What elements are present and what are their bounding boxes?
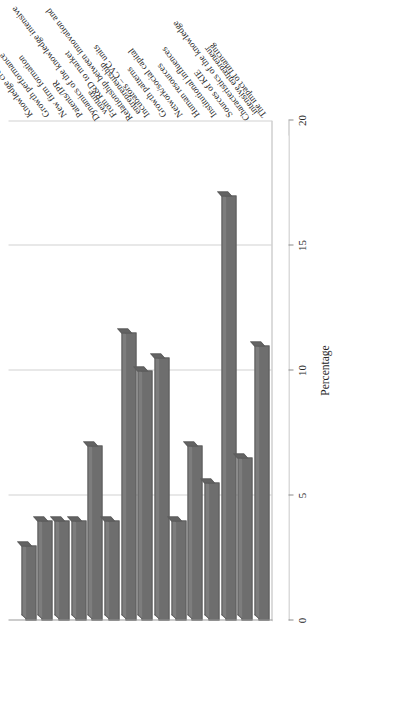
bar-row: [108, 120, 119, 620]
bar: [125, 333, 136, 621]
bar: [241, 458, 252, 621]
bar: [91, 445, 102, 620]
bar-row: [191, 120, 202, 620]
value-tick: [288, 244, 293, 245]
bar: [58, 520, 69, 620]
bar: [225, 195, 236, 620]
bar-row: [241, 120, 252, 620]
value-tick-label: 15: [295, 240, 307, 251]
plot-floor: [271, 120, 288, 635]
bar: [175, 520, 186, 620]
bar-row: [75, 120, 86, 620]
bar-row: [91, 120, 102, 620]
bar: [25, 545, 36, 620]
bar: [75, 520, 86, 620]
value-tick-label: 0: [295, 617, 307, 623]
gridline-0: [8, 619, 272, 620]
chart-figure: 05101520 Percentage The impact of financ…: [0, 0, 393, 708]
value-tick: [288, 619, 293, 620]
bar: [208, 483, 219, 621]
bar-series: [22, 120, 272, 620]
value-tick: [288, 369, 293, 370]
value-tick-label: 10: [295, 365, 307, 376]
bar-row: [25, 120, 36, 620]
bar-row: [158, 120, 169, 620]
value-tick: [288, 494, 293, 495]
bar-row: [208, 120, 219, 620]
bar-row: [175, 120, 186, 620]
category-axis: The impact of financingCharacteristics o…: [0, 0, 300, 120]
bar-row: [125, 120, 136, 620]
bar: [108, 520, 119, 620]
bar-row: [41, 120, 52, 620]
bar-row: [258, 120, 269, 620]
value-axis-title: Percentage: [318, 120, 330, 620]
bar: [41, 520, 52, 620]
plot-box: [22, 120, 272, 620]
bar-row: [141, 120, 152, 620]
value-tick-label: 5: [295, 492, 307, 498]
bar: [158, 358, 169, 621]
bar-row: [58, 120, 69, 620]
bar: [141, 370, 152, 620]
bar: [258, 345, 269, 620]
chart-plot-area: 05101520 Percentage The impact of financ…: [0, 0, 393, 708]
bar: [191, 445, 202, 620]
bar-row: [225, 120, 236, 620]
